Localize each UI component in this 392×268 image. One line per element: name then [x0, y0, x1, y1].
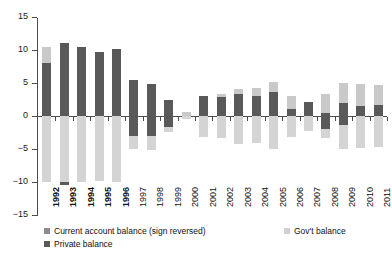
legend-item-private-balance: Private balance — [44, 239, 113, 249]
year-label-1996: 1996 — [121, 187, 131, 207]
x-tick — [317, 117, 318, 121]
bar-group-2011 — [374, 18, 383, 216]
year-label-2011: 2011 — [382, 188, 392, 207]
year-label-2000: 2000 — [190, 187, 200, 207]
segment-private-balance-2002 — [217, 97, 226, 116]
legend-item-current-account: Current account balance (sign reversed) — [44, 226, 206, 236]
x-tick — [265, 117, 266, 121]
x-tick — [108, 117, 109, 121]
bar-group-2003 — [234, 18, 243, 216]
y-tick-neg10 — [32, 182, 37, 183]
segment-private-balance-neg-1997 — [129, 116, 138, 136]
segment-gov-balance-2005 — [269, 116, 278, 149]
segment-gov-balance-1995 — [95, 116, 104, 181]
segment-private-balance-1993 — [60, 43, 69, 116]
bar-group-1992 — [42, 18, 51, 216]
year-label-1992: 1992 — [51, 187, 61, 207]
year-label-2007: 2007 — [312, 187, 322, 207]
x-tick — [335, 117, 336, 121]
year-label-2005: 2005 — [278, 187, 288, 207]
x-tick — [352, 117, 353, 121]
y-tick-0 — [32, 116, 37, 117]
segment-private-balance-1997 — [129, 80, 138, 116]
y-tick-label: −5 — [2, 144, 28, 153]
segment-private-balance-neg-1993 — [60, 182, 69, 185]
segment-gov-balance-1996 — [112, 116, 121, 182]
segment-private-balance-1996 — [112, 49, 121, 116]
segment-private-balance-neg-1998 — [147, 116, 156, 136]
x-tick — [143, 117, 144, 121]
x-tick — [387, 117, 388, 121]
year-label-1997: 1997 — [138, 187, 148, 207]
x-tick — [125, 117, 126, 121]
segment-private-balance-2005 — [269, 92, 278, 116]
bar-group-2005 — [269, 18, 278, 216]
x-tick — [195, 117, 196, 121]
legend-label-gov-balance: Gov't balance — [294, 226, 346, 236]
y-tick-neg15 — [32, 215, 37, 216]
y-tick-10 — [32, 50, 37, 51]
year-label-2001: 2001 — [208, 187, 218, 207]
chart-legend: Current account balance (sign reversed) … — [44, 226, 392, 260]
x-tick — [230, 117, 231, 121]
legend-label-current-account: Current account balance (sign reversed) — [54, 226, 206, 236]
segment-gov-balance-2007 — [304, 116, 313, 131]
bar-group-2010 — [356, 18, 365, 216]
x-tick — [370, 117, 371, 121]
year-label-2004: 2004 — [260, 187, 270, 207]
y-tick-label: 5 — [2, 78, 28, 87]
segment-gov-balance-2004 — [252, 116, 261, 143]
segment-private-balance-2003 — [234, 94, 243, 116]
segment-gov-balance-2001 — [199, 116, 208, 137]
y-tick-5 — [32, 83, 37, 84]
legend-swatch-private-balance — [44, 241, 50, 247]
segment-gov-balance-1993 — [60, 116, 69, 182]
y-tick-label: 0 — [2, 111, 28, 120]
year-label-2010: 2010 — [365, 187, 375, 207]
year-label-2008: 2008 — [330, 187, 340, 207]
segment-private-balance-1999 — [164, 100, 173, 116]
segment-private-balance-1995 — [95, 52, 104, 116]
bar-group-2001 — [199, 18, 208, 216]
y-tick-label: 15 — [2, 12, 28, 21]
segment-private-balance-neg-2008 — [321, 116, 330, 129]
x-tick — [160, 117, 161, 121]
segment-private-balance-2011 — [374, 105, 383, 116]
segment-private-balance-2001 — [199, 96, 208, 116]
legend-item-gov-balance: Gov't balance — [284, 226, 346, 236]
segment-gov-balance-2000 — [182, 116, 191, 119]
year-label-2006: 2006 — [295, 187, 305, 207]
year-label-1994: 1994 — [86, 187, 96, 207]
y-tick-label: 10 — [2, 45, 28, 54]
segment-gov-balance-1994 — [77, 116, 86, 182]
legend-swatch-current-account — [44, 228, 50, 234]
segment-private-balance-2004 — [252, 96, 261, 116]
segment-private-balance-2010 — [356, 106, 365, 116]
legend-swatch-gov-balance — [284, 228, 290, 234]
segment-private-balance-1998 — [147, 84, 156, 116]
segment-gov-balance-2002 — [217, 116, 226, 138]
segment-private-balance-neg-1999 — [164, 116, 173, 127]
year-label-2003: 2003 — [243, 187, 253, 207]
year-label-1995: 1995 — [103, 187, 113, 207]
x-tick — [90, 117, 91, 121]
x-tick — [247, 117, 248, 121]
segment-private-balance-2007 — [304, 102, 313, 116]
bar-group-1996 — [112, 18, 121, 216]
x-tick — [212, 117, 213, 121]
segment-private-balance-1994 — [77, 47, 86, 116]
x-tick — [55, 117, 56, 121]
y-tick-label: −15 — [2, 210, 28, 219]
year-label-2002: 2002 — [225, 187, 235, 207]
segment-gov-balance-2006 — [287, 116, 296, 137]
sectoral-balances-chart: 151050−5−10−15 1992199319941995199619971… — [0, 0, 392, 268]
segment-private-balance-neg-2009 — [339, 116, 348, 125]
segment-private-balance-2009 — [339, 103, 348, 116]
x-tick — [282, 117, 283, 121]
legend-label-private-balance: Private balance — [54, 239, 113, 249]
year-label-1999: 1999 — [173, 187, 183, 207]
x-tick — [300, 117, 301, 121]
segment-gov-balance-2010 — [356, 116, 365, 148]
y-tick-label: −10 — [2, 177, 28, 186]
segment-gov-balance-1992 — [42, 116, 51, 182]
